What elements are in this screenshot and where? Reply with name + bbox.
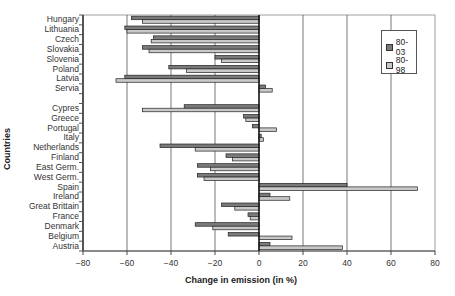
legend-label: 80-98: [396, 55, 416, 75]
bar-80-03: [184, 105, 259, 109]
bar-80-98: [235, 207, 259, 211]
legend-label: 80-03: [396, 37, 416, 57]
category-label: Latvia: [0, 74, 79, 83]
category-label: Finland: [0, 153, 79, 162]
category-label: France: [0, 212, 79, 221]
bar-80-03: [160, 144, 259, 148]
bar-80-98: [142, 20, 259, 24]
bar-80-03: [259, 183, 347, 187]
bar-80-03: [228, 233, 259, 237]
bar-80-03: [153, 36, 259, 40]
bar-80-03: [169, 65, 259, 69]
bar-80-03: [125, 75, 259, 79]
bar-80-03: [244, 115, 259, 119]
bar-80-98: [116, 79, 259, 83]
bar-80-03: [259, 242, 270, 246]
category-label: Spain: [0, 183, 79, 192]
category-label: Great Brittain: [0, 202, 79, 211]
x-tick-label: 0: [244, 258, 274, 268]
bar-80-03: [259, 85, 266, 89]
x-tick-label: 60: [376, 258, 406, 268]
bar-80-03: [125, 26, 259, 30]
bar-80-03: [195, 223, 259, 227]
bar-80-98: [204, 177, 259, 181]
category-label: Italy: [0, 133, 79, 142]
bar-80-03: [197, 164, 259, 168]
x-tick-label: −60: [112, 258, 142, 268]
bar-80-03: [215, 56, 259, 60]
bar-80-98: [211, 167, 259, 171]
category-label: Portugal: [0, 124, 79, 133]
bar-80-98: [259, 128, 277, 132]
bar-80-03: [131, 16, 259, 20]
category-label: Denmark: [0, 222, 79, 231]
category-label: Hungary: [0, 15, 79, 24]
bar-80-98: [149, 49, 259, 53]
bar-80-98: [222, 59, 259, 63]
x-tick-label: −40: [156, 258, 186, 268]
bar-80-98: [250, 216, 259, 220]
category-label: Czech: [0, 35, 79, 44]
bar-80-98: [213, 226, 259, 230]
bar-80-98: [151, 39, 259, 43]
bar-80-03: [252, 124, 259, 128]
legend: 80-03 80-98: [381, 30, 417, 74]
category-label: East Germ.: [0, 163, 79, 172]
legend-swatch-80-03: [386, 44, 393, 51]
category-label: Poland: [0, 65, 79, 74]
x-tick-label: −20: [200, 258, 230, 268]
x-tick-label: 20: [288, 258, 318, 268]
category-label: Servia: [0, 84, 79, 93]
bar-80-98: [186, 69, 259, 73]
bar-80-03: [248, 213, 259, 217]
category-label: Cypres: [0, 104, 79, 113]
bar-80-03: [226, 154, 259, 158]
bar-80-03: [197, 174, 259, 178]
x-axis-title: Change in emission (in %): [185, 275, 297, 285]
bar-80-98: [259, 89, 272, 93]
bar-80-98: [259, 187, 417, 191]
category-label: West Germ.: [0, 173, 79, 182]
bar-80-03: [222, 203, 259, 207]
legend-item-80-03: 80-03: [386, 37, 416, 57]
bar-80-98: [233, 157, 259, 161]
category-label: Belgium: [0, 232, 79, 241]
category-label: Netherlands: [0, 143, 79, 152]
bar-80-98: [142, 108, 259, 112]
x-tick-label: −80: [68, 258, 98, 268]
category-label: Ireland: [0, 192, 79, 201]
bar-80-98: [246, 118, 259, 122]
legend-item-80-98: 80-98: [386, 55, 416, 75]
x-tick-label: 80: [420, 258, 450, 268]
legend-swatch-80-98: [386, 62, 393, 69]
category-label: Lithuania: [0, 25, 79, 34]
category-label: Slovenia: [0, 55, 79, 64]
bar-80-98: [195, 148, 259, 152]
bar-80-98: [127, 30, 259, 34]
bar-80-98: [259, 246, 343, 250]
category-label: Greece: [0, 114, 79, 123]
bar-80-03: [142, 46, 259, 50]
category-label: Austria: [0, 242, 79, 251]
bar-80-03: [259, 193, 270, 197]
x-tick-label: 40: [332, 258, 362, 268]
category-label: Slovakia: [0, 45, 79, 54]
bar-80-98: [259, 197, 290, 201]
bar-80-98: [259, 236, 292, 240]
